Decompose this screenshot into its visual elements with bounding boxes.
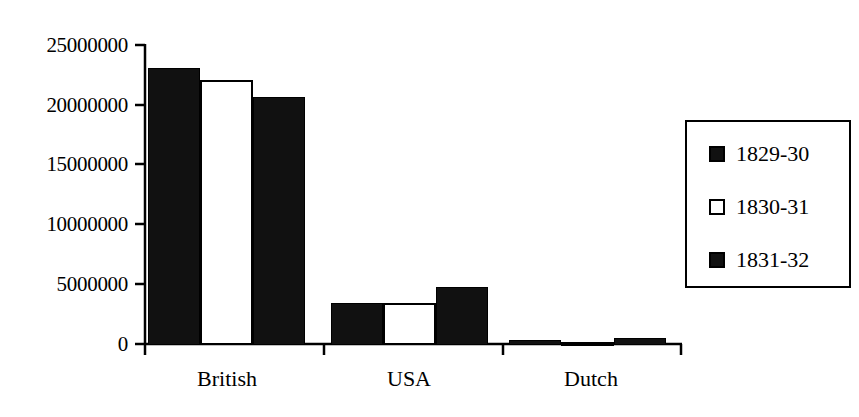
legend-label: 1830-31 (736, 196, 809, 218)
legend-label: 1831-32 (736, 249, 809, 271)
bar-british-1831-32 (253, 97, 305, 345)
legend-swatch-filled-icon (709, 252, 725, 268)
y-axis-ticks (135, 45, 145, 344)
bar-dutch-1831-32 (614, 338, 666, 345)
legend-item-1831-32: 1831-32 (709, 248, 809, 272)
bar-chart: 25000000 20000000 15000000 10000000 5000… (0, 0, 859, 417)
x-axis-category-label-british: British (197, 368, 257, 390)
chart-legend: 1829-30 1830-31 1831-32 (685, 120, 851, 288)
bar-usa-1830-31 (383, 303, 436, 345)
x-axis-category-label-dutch: Dutch (564, 368, 618, 390)
bar-dutch-1829-30 (509, 340, 561, 345)
bar-usa-1831-32 (436, 287, 488, 345)
bar-dutch-1830-31 (561, 342, 614, 346)
legend-label: 1829-30 (736, 143, 809, 165)
x-axis-category-label-usa: USA (387, 368, 431, 390)
bar-british-1830-31 (200, 80, 253, 345)
legend-item-1829-30: 1829-30 (709, 142, 809, 166)
legend-item-1830-31: 1830-31 (709, 195, 809, 219)
bar-usa-1829-30 (331, 303, 383, 345)
bar-british-1829-30 (148, 68, 200, 345)
legend-swatch-filled-icon (709, 146, 725, 162)
legend-swatch-hollow-icon (709, 199, 725, 215)
